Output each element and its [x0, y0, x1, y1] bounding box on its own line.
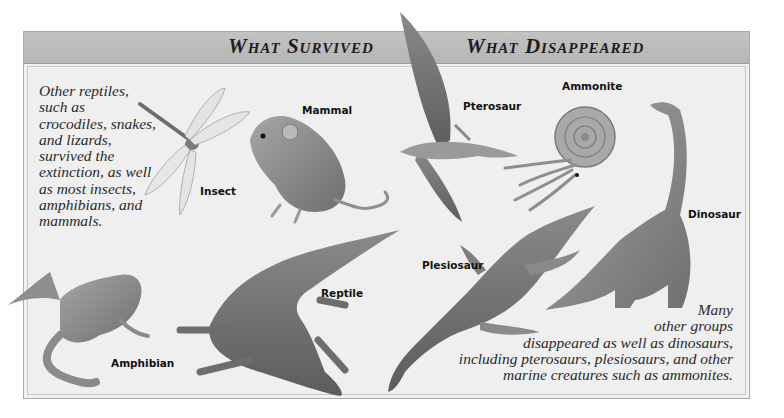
mammal-illustration: [250, 116, 388, 222]
label-pterosaur: Pterosaur: [463, 100, 521, 112]
label-ammonite: Ammonite: [562, 80, 622, 92]
caption-what-disappeared: Many other groups disappeared as well as…: [386, 302, 733, 383]
label-plesiosaur: Plesiosaur: [422, 259, 483, 271]
label-insect: Insect: [200, 185, 236, 197]
label-amphibian: Amphibian: [111, 357, 174, 369]
label-mammal: Mammal: [302, 104, 352, 116]
caption-what-survived: Other reptiles, such as crocodiles, snak…: [39, 83, 164, 230]
ammonite-illustration: [505, 107, 615, 210]
label-reptile: Reptile: [321, 287, 363, 299]
label-dinosaur: Dinosaur: [688, 208, 741, 220]
reptile-illustration: [180, 230, 400, 396]
pterosaur-illustration: [400, 12, 518, 222]
